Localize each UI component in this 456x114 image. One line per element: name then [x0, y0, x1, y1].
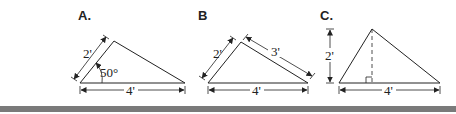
- divider-bar: [0, 106, 456, 112]
- left-side-label-b: 2': [213, 46, 222, 61]
- triangle-a: A. 2' 50° 4': [71, 8, 185, 98]
- figure-label-a: A.: [78, 8, 91, 23]
- base-label-c: 4': [384, 83, 393, 98]
- triangles-diagram: A. 2' 50° 4' B 2' 3' 4': [0, 0, 456, 114]
- side-label-a: 2': [83, 46, 92, 61]
- triangle-c: C. 2' 4': [320, 8, 440, 98]
- base-label-a: 4': [126, 83, 135, 98]
- triangle-b: B 2' 3' 4': [198, 8, 315, 98]
- right-side-label-b: 3': [271, 44, 280, 59]
- figure-label-c: C.: [320, 8, 333, 23]
- base-label-b: 4': [252, 83, 261, 98]
- figure-label-b: B: [198, 8, 207, 23]
- angle-label-a: 50°: [100, 65, 118, 80]
- height-label-c: 2': [325, 48, 334, 63]
